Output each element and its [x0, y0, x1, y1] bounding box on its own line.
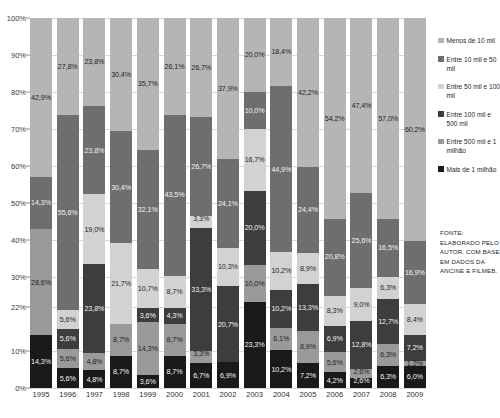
bar-segment: 54,2%	[324, 18, 346, 219]
bar-segment: 21,7%	[110, 243, 132, 323]
bar-segment-label: 2,6%	[353, 377, 369, 384]
bar-segment-label: 16,7%	[245, 156, 265, 163]
bar-segment-label: 12,7%	[378, 318, 398, 325]
bar-segment: 16,5%	[377, 219, 399, 277]
bar-segment: 44,9%	[270, 86, 292, 252]
bar-column: 30,4%30,4%21,7%8,7%8,7%	[110, 18, 132, 388]
stacked-bars: 42,9%14,3%28,6%14,3%27,8%55,6%5,6%5,6%5,…	[30, 18, 426, 388]
x-axis-tick-label: 2004	[270, 390, 292, 399]
x-axis-tick-label: 2006	[324, 390, 346, 399]
legend-item[interactable]: Entre 100 mil e 500 mil	[438, 110, 500, 128]
bar-segment: 26,7%	[190, 18, 212, 117]
legend-item[interactable]: Menos de 10 mil	[438, 36, 500, 45]
bar-segment-label: 20,7%	[218, 321, 238, 328]
bar-segment: 6,7%	[190, 363, 212, 388]
bar-segment-label: 7,2%	[407, 344, 423, 351]
bar-segment-label: 44,9%	[271, 166, 291, 173]
y-axis-tick-label: 90%	[11, 51, 26, 60]
bar-segment-label: 5,6%	[60, 335, 76, 342]
chart-container: 0%10%22%30%40%50%60%70%80%90%100% 42,9%1…	[0, 0, 500, 418]
bar-segment: 8,7%	[164, 356, 186, 388]
bar-segment-label: 8,7%	[167, 336, 183, 343]
bar-column: 26,1%43,5%8,7%4,3%8,7%8,7%	[164, 18, 186, 388]
bar-segment-label: 47,4%	[351, 102, 371, 109]
bar-segment: 47,4%	[350, 18, 372, 193]
bar-segment: 6,9%	[217, 362, 239, 388]
x-axis-tick-label: 2000	[164, 390, 186, 399]
bar-segment: 16,9%	[404, 241, 426, 304]
bar-segment: 10,0%	[244, 265, 266, 302]
bar-segment: 23,3%	[244, 302, 266, 388]
bar-column: 60,2%16,9%8,4%7,2%1,2%6,0%	[404, 18, 426, 388]
bar-segment-label: 20,0%	[245, 51, 265, 58]
bar-segment-label: 6,9%	[220, 372, 236, 379]
bar-segment: 16,7%	[244, 129, 266, 191]
bar-segment-label: 19,0%	[84, 226, 104, 233]
bar-column: 26,7%26,7%3,3%33,3%3,3%6,7%	[190, 18, 212, 388]
bar-segment: 42,9%	[30, 18, 52, 177]
bar-segment: 28,6%	[30, 229, 52, 335]
legend-item[interactable]: Entre 50 mil e 100 mil	[438, 82, 500, 100]
bar-segment-label: 6,3%	[380, 373, 396, 380]
bar-segment: 5,6%	[57, 329, 79, 349]
bar-segment: 14,3%	[30, 177, 52, 230]
bar-column: 27,8%55,6%5,6%5,6%5,6%5,6%	[57, 18, 79, 388]
bar-segment-label: 42,9%	[31, 94, 51, 101]
bar-segment-label: 26,7%	[191, 64, 211, 71]
bar-segment: 6,3%	[377, 344, 399, 366]
bar-segment-label: 60,2%	[405, 126, 425, 133]
bar-column: 42,9%14,3%28,6%14,3%	[30, 18, 52, 388]
bar-segment-label: 8,7%	[167, 288, 183, 295]
bar-segment: 3,6%	[137, 375, 159, 388]
bar-segment-label: 16,5%	[378, 244, 398, 251]
bar-segment-label: 7,2%	[300, 372, 316, 379]
bar-segment: 8,7%	[164, 324, 186, 356]
bar-segment-label: 10,2%	[271, 305, 291, 312]
bar-segment-label: 3,3%	[193, 350, 209, 357]
bar-segment-label: 23,3%	[245, 341, 265, 348]
bar-segment-label: 5,6%	[60, 375, 76, 382]
x-axis-tick-label: 2005	[297, 390, 319, 399]
bar-segment: 8,7%	[110, 324, 132, 356]
legend-item[interactable]: Mais de 1 milhão	[438, 165, 500, 174]
bar-segment: 10,7%	[137, 269, 159, 309]
bar-segment: 10,2%	[270, 252, 292, 290]
legend-item[interactable]: Entre 10 mil e 50 mil	[438, 55, 500, 73]
legend-item-label: Entre 10 mil e 50 mil	[447, 55, 500, 73]
bar-segment-label: 8,7%	[113, 368, 129, 375]
bar-segment: 26,1%	[164, 18, 186, 115]
bar-segment: 24,4%	[297, 167, 319, 253]
bar-segment: 3,3%	[190, 351, 212, 363]
bar-column: 23,8%23,8%19,0%23,8%4,8%4,8%	[83, 18, 105, 388]
bar-segment-label: 2,6%	[353, 368, 369, 375]
bar-segment-label: 43,5%	[165, 191, 185, 198]
bar-segment: 6,0%	[404, 366, 426, 388]
y-axis-tick-label: 80%	[11, 88, 26, 97]
bar-segment-label: 30,4%	[111, 184, 131, 191]
bar-segment-label: 3,3%	[193, 215, 209, 222]
bar-segment: 10,3%	[217, 248, 239, 286]
bar-segment-label: 8,4%	[407, 316, 423, 323]
bar-column: 47,4%25,6%9,0%12,8%2,6%2,6%	[350, 18, 372, 388]
legend-item[interactable]: Entre 500 mil e 1 milhão	[438, 137, 500, 155]
bar-segment-label: 3,6%	[140, 312, 156, 319]
bar-segment-label: 55,6%	[58, 209, 78, 216]
bar-segment: 23,8%	[83, 106, 105, 194]
x-axis-tick-label: 2009	[404, 390, 426, 399]
bar-segment: 8,7%	[164, 276, 186, 308]
bar-segment: 14,3%	[30, 335, 52, 388]
bar-segment-label: 21,7%	[111, 280, 131, 287]
bar-column: 37,9%24,1%10,3%20,7%6,9%	[217, 18, 239, 388]
bar-segment-label: 54,2%	[325, 115, 345, 122]
bar-segment-label: 37,9%	[218, 85, 238, 92]
bar-segment: 8,9%	[297, 331, 319, 362]
bar-segment: 8,7%	[110, 356, 132, 388]
gridline	[30, 388, 426, 389]
bar-segment-label: 23,8%	[84, 58, 104, 65]
bar-segment: 33,3%	[190, 228, 212, 351]
bar-segment: 43,5%	[164, 115, 186, 276]
bar-segment-label: 26,1%	[165, 63, 185, 70]
bar-segment: 4,3%	[164, 308, 186, 324]
bar-segment: 5,6%	[57, 310, 79, 330]
bar-segment-label: 10,7%	[138, 285, 158, 292]
